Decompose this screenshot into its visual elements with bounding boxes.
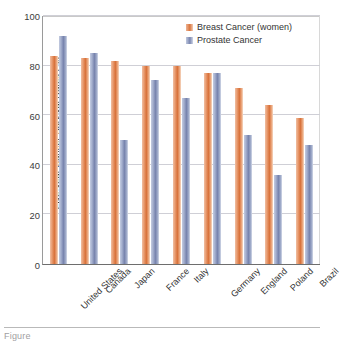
bar[interactable] xyxy=(90,53,98,264)
bar[interactable] xyxy=(305,145,313,264)
legend-item-prostate-cancer: Prostate Cancer xyxy=(186,35,292,45)
y-tick-label: 0 xyxy=(14,260,40,271)
y-tick-label: 100 xyxy=(14,11,40,22)
x-tick-label: Germany xyxy=(229,266,262,299)
bar[interactable] xyxy=(213,73,221,264)
bar-group xyxy=(105,16,136,264)
legend-label-prostate: Prostate Cancer xyxy=(197,35,262,45)
bar-group xyxy=(289,16,320,264)
y-tick-label: 40 xyxy=(14,160,40,171)
y-axis-tick-labels: 020406080100 xyxy=(14,10,40,272)
figure-caption: Figure xyxy=(4,331,31,341)
bar[interactable] xyxy=(111,61,119,264)
x-tick-label: England xyxy=(258,266,288,296)
legend-item-breast-cancer: Breast Cancer (women) xyxy=(186,22,292,32)
y-tick-label: 20 xyxy=(14,210,40,221)
legend-swatch-icon-breast xyxy=(186,24,193,31)
x-tick-label: Italy xyxy=(192,266,211,285)
bar[interactable] xyxy=(59,36,67,264)
legend-swatch-icon-prostate xyxy=(186,37,193,44)
bar-group xyxy=(166,16,197,264)
bar[interactable] xyxy=(81,58,89,264)
bar[interactable] xyxy=(265,105,273,264)
bar[interactable] xyxy=(274,175,282,264)
bar-group xyxy=(228,16,259,264)
x-axis-tick-labels: United StatesCanadaJapanFranceItalyGerma… xyxy=(42,266,320,324)
bar[interactable] xyxy=(296,118,304,264)
bar[interactable] xyxy=(120,140,128,264)
bar-group xyxy=(135,16,166,264)
bar-group xyxy=(43,16,74,264)
y-tick-label: 60 xyxy=(14,110,40,121)
caption-divider xyxy=(4,327,320,328)
chart-legend: Breast Cancer (women) Prostate Cancer xyxy=(186,22,292,45)
bar[interactable] xyxy=(235,88,243,264)
x-tick-label: Japan xyxy=(132,266,156,290)
bar-group xyxy=(197,16,228,264)
bar[interactable] xyxy=(142,66,150,264)
bar[interactable] xyxy=(151,80,159,264)
bar[interactable] xyxy=(50,56,58,264)
legend-label-breast: Breast Cancer (women) xyxy=(197,22,292,32)
bar-group xyxy=(258,16,289,264)
bar[interactable] xyxy=(204,73,212,264)
y-tick-label: 80 xyxy=(14,60,40,71)
plot-area xyxy=(42,16,320,265)
bar-groups xyxy=(43,16,320,264)
bar-group xyxy=(74,16,105,264)
x-tick-label: Brazil xyxy=(317,266,340,289)
bar[interactable] xyxy=(182,98,190,264)
bar[interactable] xyxy=(173,66,181,264)
x-tick-label: Poland xyxy=(288,266,315,293)
bar[interactable] xyxy=(244,135,252,264)
x-tick-label: France xyxy=(164,266,191,293)
